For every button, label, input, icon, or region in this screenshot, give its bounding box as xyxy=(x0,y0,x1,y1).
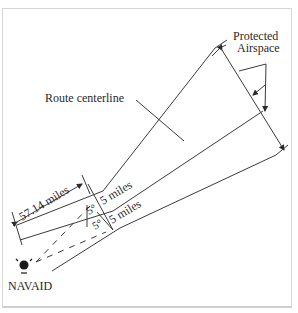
navaid-icon xyxy=(16,259,32,273)
route-centerline-label: Route centerline xyxy=(45,91,124,105)
protected-leader-line xyxy=(212,45,226,56)
distance-label: 57.14 miles xyxy=(16,183,71,224)
centerline-leader-line xyxy=(136,100,184,141)
protected-bracket-mid xyxy=(253,85,265,95)
navaid-label: NAVAID xyxy=(8,279,53,293)
protected-width-arrow xyxy=(222,50,284,150)
angle-dashed-lower xyxy=(36,232,106,262)
upper-boundary-line xyxy=(103,40,227,191)
protected-airspace-label-2: Airspace xyxy=(237,41,280,55)
airspace-diagram: Protected Airspace Route centerline 57.1… xyxy=(0,0,298,313)
upper-angle-label: 5° xyxy=(84,201,99,216)
lower-boundary-line xyxy=(120,145,288,228)
